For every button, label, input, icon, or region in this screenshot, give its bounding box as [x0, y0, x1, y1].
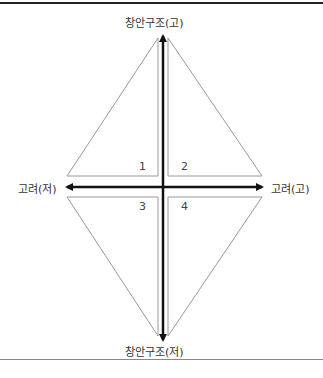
axis-label-top: 창안구조(고): [125, 14, 184, 30]
axis-label-left: 고려(저): [18, 180, 57, 196]
quadrant-number-2: 2: [181, 160, 188, 173]
triangle-quadrant-2: [168, 38, 262, 176]
triangle-quadrant-4: [168, 197, 262, 336]
quadrant-number-4: 4: [181, 200, 188, 213]
triangle-quadrant-3: [67, 197, 158, 336]
quadrant-number-3: 3: [139, 200, 146, 213]
axis-label-right: 고려(고): [271, 180, 310, 196]
bottom-border: [0, 359, 323, 360]
axis-label-bottom: 창안구조(저): [125, 343, 184, 359]
quadrant-number-1: 1: [139, 160, 146, 173]
triangle-quadrant-1: [67, 38, 158, 176]
